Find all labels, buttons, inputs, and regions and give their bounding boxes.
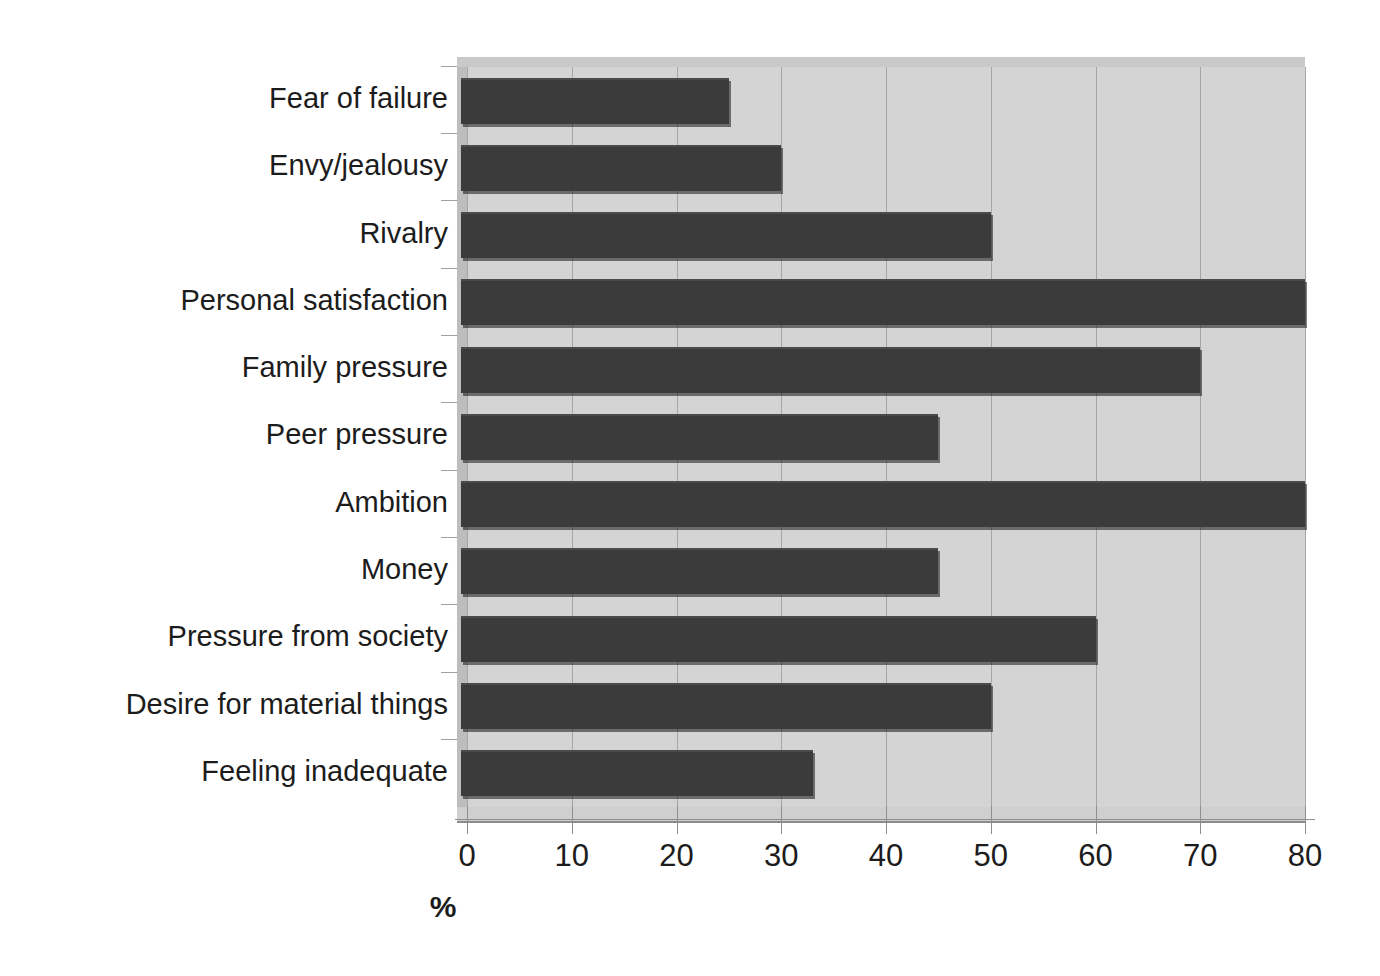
bar-series [467,67,1305,807]
x-tick-label-80: 80 [1288,838,1322,874]
x-axis-title: % [0,890,1380,924]
gridline-80 [1305,67,1306,807]
bar-row [467,672,1305,739]
x-tick-label-50: 50 [974,838,1008,874]
bar-row [467,202,1305,269]
bar-row [467,67,1305,134]
bar-family-pressure [461,347,1200,393]
category-label-fear-of-failure: Fear of failure [90,65,460,132]
bar-row [467,403,1305,470]
bar-row [467,134,1305,201]
bar-rivalry [461,212,991,258]
x-tick-label-20: 20 [659,838,693,874]
bar-feeling-inadequate [461,750,813,796]
x-tick-40 [886,806,887,834]
bar-money [461,548,938,594]
bar-fear-of-failure [461,78,729,124]
bar-peer-pressure [461,414,938,460]
bar-ambition [461,481,1305,527]
bar-row [467,605,1305,672]
category-label-money: Money [90,536,460,603]
x-tick-label-60: 60 [1078,838,1112,874]
category-label-feeling-inadequate: Feeling inadequate [90,738,460,805]
bar-personal-satisfaction [461,279,1305,325]
bar-pressure-from-society [461,616,1096,662]
plot-base [457,807,1305,823]
x-tick-0 [467,806,468,834]
x-tick-label-0: 0 [458,838,475,874]
x-tick-label-70: 70 [1183,838,1217,874]
category-label-pressure-from-society: Pressure from society [90,603,460,670]
bar-row [467,269,1305,336]
bar-row [467,336,1305,403]
x-tick-label-40: 40 [869,838,903,874]
x-tick-label-10: 10 [555,838,589,874]
category-label-ambition: Ambition [90,469,460,536]
category-label-personal-satisfaction: Personal satisfaction [90,267,460,334]
plot-top-wall [457,57,1305,67]
bar-envy-jealousy [461,145,781,191]
x-axis-title-text: % [430,890,457,924]
bar-chart: Fear of failure Envy/jealousy Rivalry Pe… [0,0,1380,976]
category-label-peer-pressure: Peer pressure [90,401,460,468]
x-axis-line [455,819,1315,820]
category-axis: Fear of failure Envy/jealousy Rivalry Pe… [90,65,460,805]
bar-row [467,471,1305,538]
x-tick-60 [1096,806,1097,834]
bar-row [467,538,1305,605]
x-tick-70 [1200,806,1201,834]
category-label-family-pressure: Family pressure [90,334,460,401]
x-tick-50 [991,806,992,834]
x-tick-30 [781,806,782,834]
category-label-desire-for-material-things: Desire for material things [90,670,460,737]
x-tick-label-30: 30 [764,838,798,874]
category-label-envy-jealousy: Envy/jealousy [90,132,460,199]
bar-desire-for-material-things [461,683,991,729]
x-tick-80 [1305,806,1306,834]
x-tick-20 [677,806,678,834]
plot-area [467,65,1305,807]
bar-row [467,740,1305,807]
x-tick-10 [572,806,573,834]
category-label-rivalry: Rivalry [90,200,460,267]
